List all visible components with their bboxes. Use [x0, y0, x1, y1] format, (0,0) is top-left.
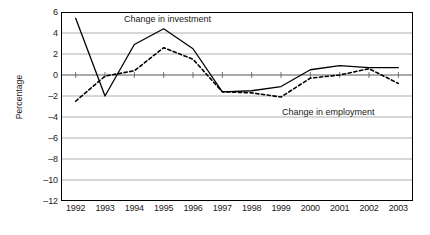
series-line-investment: [76, 18, 399, 96]
data-series-group: [76, 18, 399, 101]
y-tick-label: 2: [30, 49, 58, 59]
x-tick-label: 2003: [378, 203, 418, 213]
series-label-investment: Change in investment: [124, 14, 211, 24]
y-tick-label: –8: [30, 154, 58, 164]
y-tick-label: –12: [30, 196, 58, 206]
y-tick-label: 6: [30, 7, 58, 17]
y-axis-tick-labels: 6420–2–4–6–8–10–12: [28, 0, 58, 235]
series-label-employment: Change in employment: [282, 107, 375, 117]
y-tick-label: –2: [30, 91, 58, 101]
series-line-employment: [76, 48, 399, 102]
y-tick-label: –4: [30, 112, 58, 122]
y-tick-label: 0: [30, 70, 58, 80]
y-axis-label: Percentage: [14, 52, 24, 142]
chart-figure: Percentage 6420–2–4–6–8–10–12 1992199319…: [0, 0, 430, 235]
y-tick-label: 4: [30, 28, 58, 38]
y-tick-label: –10: [30, 175, 58, 185]
y-tick-label: –6: [30, 133, 58, 143]
